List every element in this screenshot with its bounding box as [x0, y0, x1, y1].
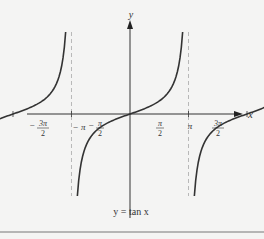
tick-label-neg-pi: − π — [73, 122, 86, 132]
tick-label-3pi-2: 3π 2 — [212, 119, 224, 138]
svg-text:−: − — [88, 120, 93, 130]
svg-text:3π: 3π — [38, 119, 48, 128]
y-axis-label: y — [128, 9, 134, 20]
svg-text:2: 2 — [98, 129, 102, 138]
svg-text:π: π — [158, 119, 163, 128]
y-axis-arrowhead-icon — [127, 20, 133, 29]
svg-text:2: 2 — [158, 129, 162, 138]
tick-label-pi: π — [188, 121, 193, 131]
svg-text:3π: 3π — [213, 119, 223, 128]
svg-text:2: 2 — [41, 129, 45, 138]
x-axis-label: x — [247, 108, 253, 120]
svg-text:2: 2 — [216, 129, 220, 138]
svg-text:−: − — [29, 120, 34, 130]
tick-label-neg-pi-2: − π 2 — [88, 119, 104, 138]
tan-graph-figure: y x − 3π 2 − π − π 2 π 2 π 3π 2 y = tan … — [0, 0, 264, 239]
tick-label-pi-2: π 2 — [156, 119, 164, 138]
caption: y = tan x — [113, 206, 148, 217]
tick-label-neg-3pi-2: − 3π 2 — [29, 119, 49, 138]
